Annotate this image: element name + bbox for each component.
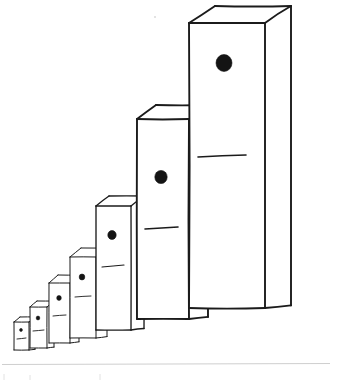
block-front-face xyxy=(96,206,131,330)
block-pip-dot xyxy=(79,274,85,280)
block-front-face xyxy=(70,257,96,338)
footer-divider-rule xyxy=(2,364,330,365)
stray-speck xyxy=(154,16,156,18)
block-front-left-edge xyxy=(189,23,190,308)
block-pip-dot xyxy=(155,170,167,183)
block-side-face xyxy=(265,6,291,308)
block-front-face xyxy=(14,322,29,350)
block-side-bottom-edge xyxy=(29,349,35,350)
block-top-back-edge xyxy=(215,6,291,7)
block-pip-dot xyxy=(36,316,40,320)
block-pip-dot xyxy=(57,296,62,301)
domino-sketch: Hand-drawn domino blocks in ascending si… xyxy=(0,0,353,380)
block-front-face xyxy=(30,307,47,348)
block-pip-dot xyxy=(20,329,23,332)
illustration-canvas: Hand-drawn domino blocks in ascending si… xyxy=(0,0,353,380)
block-front-face xyxy=(49,283,70,343)
block-pip-dot xyxy=(108,231,116,240)
block-front-face xyxy=(137,119,189,319)
domino-block-7 xyxy=(189,6,291,309)
block-pip-dot xyxy=(216,55,232,72)
domino-blocks-group xyxy=(14,6,291,350)
block-front-bottom-edge xyxy=(189,308,265,309)
